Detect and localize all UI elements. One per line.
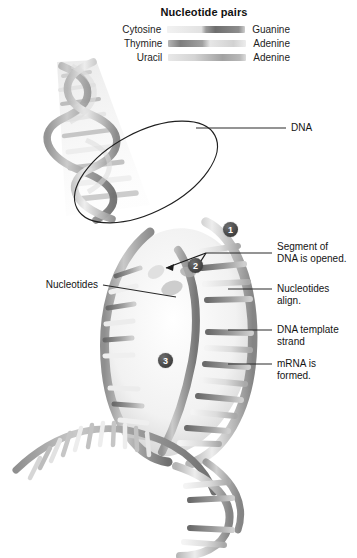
label-dna-template-strand: DNA template strand: [277, 324, 357, 347]
legend-row-uracil-adenine: Uracil Adenine: [110, 51, 290, 64]
figure-canvas: Nucleotide pairs Cytosine Guanine Thymin…: [0, 0, 357, 558]
label-segment-opened: Segment of DNA is opened.: [277, 241, 357, 264]
legend: Nucleotide pairs Cytosine Guanine Thymin…: [110, 6, 290, 65]
thymine-adenine-bar: [168, 40, 246, 47]
cytosine-guanine-bar: [167, 26, 245, 33]
legend-label-adenine-thymine: Adenine: [246, 37, 290, 50]
step-badge-2: 2: [188, 258, 203, 273]
legend-row-cytosine-guanine: Cytosine Guanine: [110, 23, 290, 36]
legend-label-uracil: Uracil: [110, 51, 168, 64]
step-badge-3: 3: [158, 353, 173, 368]
label-nucleotides-align: Nucleotides align.: [277, 283, 357, 306]
legend-label-adenine-uracil: Adenine: [246, 51, 290, 64]
legend-label-guanine: Guanine: [245, 23, 290, 36]
legend-label-cytosine: Cytosine: [110, 23, 167, 36]
legend-title: Nucleotide pairs: [110, 6, 290, 18]
label-nucleotides: Nucleotides: [0, 279, 98, 291]
step-badge-1: 1: [223, 222, 238, 237]
uracil-adenine-bar: [168, 54, 246, 61]
legend-label-thymine: Thymine: [110, 37, 168, 50]
label-dna: DNA: [291, 122, 312, 134]
legend-row-thymine-adenine: Thymine Adenine: [110, 37, 290, 50]
label-mrna-formed: mRNA is formed.: [277, 358, 357, 381]
